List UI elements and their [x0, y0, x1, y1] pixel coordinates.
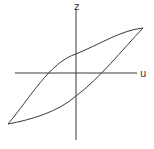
- u-axis-label: u: [140, 68, 146, 79]
- z-axis-label: z: [74, 1, 79, 12]
- hysteresis-diagram: z u: [0, 0, 154, 149]
